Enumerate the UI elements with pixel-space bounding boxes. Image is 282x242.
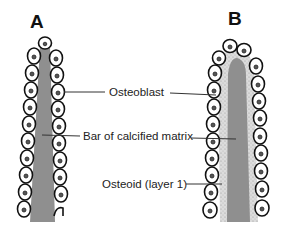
label-osteoblast-group: Osteoblast [64,86,216,98]
panel-a [18,37,68,222]
label-osteoid: Osteoid (layer 1) [102,178,187,190]
panel-letter-b: B [228,8,242,29]
bone-formation-diagram: A B [0,0,282,242]
label-osteoblast: Osteoblast [109,86,165,98]
label-calcified-matrix: Bar of calcified matrix [83,130,193,142]
panel-letter-a: A [30,11,44,32]
panel-b [203,40,269,223]
osteoblast-cells-b-left [203,65,222,218]
label-osteoid-group: Osteoid (layer 1) [102,178,222,190]
